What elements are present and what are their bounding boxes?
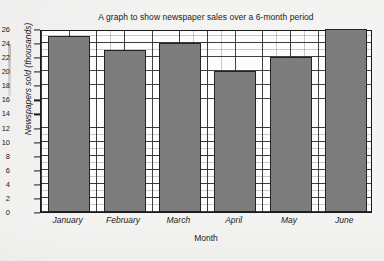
y-tick-mark [34, 114, 40, 115]
y-tick-label: 8 [0, 153, 10, 161]
x-tick-label: March [167, 215, 191, 225]
y-tick-label: 6 [0, 167, 10, 175]
x-tick-label: April [225, 215, 242, 225]
bar [104, 50, 146, 212]
y-tick-label: 18 [0, 83, 10, 91]
y-tick-mark [34, 170, 40, 171]
y-tick-label: 26 [0, 26, 10, 34]
y-tick-mark [34, 212, 40, 213]
x-tick-label: January [53, 215, 83, 225]
y-tick-mark [34, 198, 40, 199]
y-tick-mark [34, 184, 40, 185]
y-tick-label: 24 [0, 40, 10, 48]
plot-area [40, 30, 372, 213]
y-tick-mark [34, 43, 40, 44]
y-tick-label: 16 [0, 97, 10, 105]
y-tick-label: 0 [0, 209, 10, 217]
y-tick-mark [34, 156, 40, 157]
bar-chart-figure: A graph to show newspaper sales over a 6… [0, 0, 384, 261]
bar [214, 71, 256, 212]
bar [159, 43, 201, 212]
y-tick-label: 14 [0, 111, 10, 119]
bar [325, 29, 367, 212]
x-tick-label: June [335, 215, 353, 225]
y-axis-label: Newspapers sold (thousands) [23, 0, 33, 167]
y-tick-label: 10 [0, 139, 10, 147]
chart-title: A graph to show newspaper sales over a 6… [40, 12, 372, 22]
y-tick-label: 4 [0, 181, 10, 189]
y-tick-mark [34, 128, 40, 129]
bars-layer [41, 31, 371, 212]
y-tick-label: 22 [0, 54, 10, 62]
y-tick-mark [34, 58, 40, 59]
y-tick-label: 20 [0, 68, 10, 76]
y-tick-mark [34, 100, 40, 101]
x-tick-label: May [281, 215, 297, 225]
x-tick-label: February [106, 215, 140, 225]
x-axis-label: Month [40, 233, 372, 243]
bar [270, 57, 312, 212]
y-tick-mark [34, 142, 40, 143]
y-tick-label: 12 [0, 125, 10, 133]
y-tick-mark [34, 72, 40, 73]
y-tick-mark [34, 86, 40, 87]
y-tick-mark [34, 29, 40, 30]
y-tick-label: 2 [0, 195, 10, 203]
bar [48, 36, 90, 212]
